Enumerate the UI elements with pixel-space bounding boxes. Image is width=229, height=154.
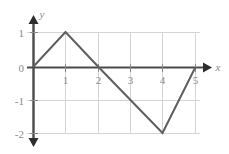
x-tick-label-5: 5 xyxy=(193,74,199,86)
y-tick-label-1: 1 xyxy=(19,27,25,39)
x-tick-label-3: 3 xyxy=(128,74,134,86)
x-tick-label-1: 1 xyxy=(63,74,69,86)
y-tick-label-0: 0 xyxy=(19,62,25,74)
chart-figure: 1 0 -1 -2 1 2 3 4 5 y x xyxy=(0,0,229,154)
y-tick-label-minus-2: -2 xyxy=(15,128,24,140)
x-tick-label-4: 4 xyxy=(160,74,166,86)
y-tick-label-minus-1: -1 xyxy=(15,95,24,107)
line-chart: 1 0 -1 -2 1 2 3 4 5 y x xyxy=(0,0,229,154)
y-axis-label: y xyxy=(39,8,45,20)
x-tick-label-2: 2 xyxy=(96,74,102,86)
x-axis-label: x xyxy=(215,61,221,73)
